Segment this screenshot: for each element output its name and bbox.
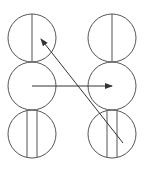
circle-outline xyxy=(8,110,56,158)
diagonal-arrow xyxy=(41,39,123,143)
circle-top-right xyxy=(88,14,136,62)
arrows-group xyxy=(32,39,123,143)
diagram-canvas xyxy=(0,0,144,170)
circle-bottom-left xyxy=(8,110,56,158)
circle-top-left xyxy=(8,14,56,62)
circle-outline xyxy=(88,110,136,158)
circle-bottom-right xyxy=(88,110,136,158)
